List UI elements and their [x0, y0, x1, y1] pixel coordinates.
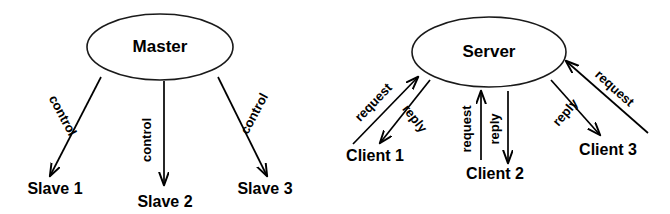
edge-label-reply-1: reply: [399, 101, 430, 135]
node-master[interactable]: Master: [87, 14, 233, 80]
edge-master-slave-1: control: [46, 77, 101, 176]
diagram-canvas: control control control Master Slave 1 S…: [0, 0, 670, 214]
slave-1-label: Slave 1: [27, 180, 82, 197]
edge-label-control-2: control: [139, 118, 154, 162]
edge-label-reply-3: reply: [549, 95, 581, 129]
slave-2-label: Slave 2: [137, 193, 192, 210]
client-3-label: Client 3: [579, 141, 637, 158]
slave-3-label: Slave 3: [237, 180, 292, 197]
master-slave-diagram: control control control Master Slave 1 S…: [27, 14, 292, 210]
edge-client2-request: request: [459, 91, 481, 160]
edge-client3-reply: reply: [549, 80, 600, 135]
edge-master-slave-3: control: [218, 77, 271, 176]
edge-client3-request: request: [566, 61, 648, 133]
diagram-root: control control control Master Slave 1 S…: [0, 0, 670, 214]
node-server[interactable]: Server: [412, 17, 566, 87]
client-1-label: Client 1: [346, 147, 404, 164]
edge-label-request-1: request: [352, 80, 396, 125]
edge-client2-reply: reply: [487, 91, 508, 163]
server-label: Server: [463, 42, 516, 61]
client-server-diagram: request reply request reply request repl: [346, 17, 648, 182]
master-label: Master: [133, 37, 188, 56]
edge-label-control-3: control: [237, 91, 271, 137]
client-2-label: Client 2: [466, 165, 524, 182]
edge-label-control-1: control: [46, 93, 80, 139]
edge-label-request-2: request: [459, 105, 474, 153]
edge-master-slave-2: control: [139, 81, 164, 185]
edge-label-reply-2: reply: [487, 113, 502, 145]
